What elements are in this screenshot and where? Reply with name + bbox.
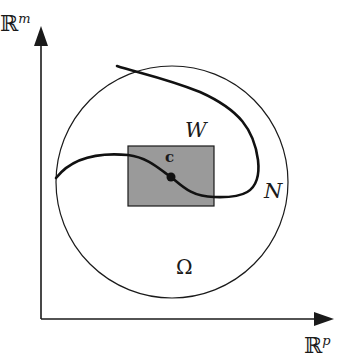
horizontal-axis-arrow-icon <box>314 312 334 326</box>
vertical-axis-arrow-icon <box>34 26 48 46</box>
diagram-canvas <box>0 0 346 361</box>
region-label: Ω <box>176 257 193 277</box>
manifold-label: N <box>264 181 282 202</box>
neighborhood-label: W <box>185 120 207 141</box>
horizontal-axis-label: ℝp <box>304 334 331 357</box>
point-c-dot <box>167 173 176 182</box>
point-label: c <box>165 150 174 165</box>
vertical-axis-label: ℝm <box>0 12 31 35</box>
